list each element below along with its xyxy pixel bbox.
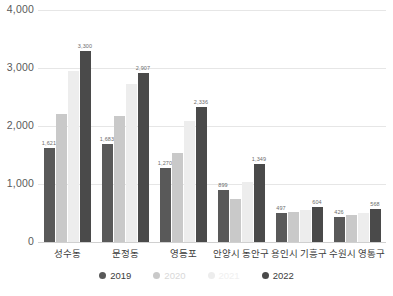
- bar-2022-영등포: 2,336: [196, 10, 207, 242]
- bar-2021-용인시 기흥구: [300, 10, 311, 242]
- bar-2022-성수동: 3,300: [80, 10, 91, 242]
- y-tick-label: 4,000: [0, 3, 34, 15]
- legend-swatch-icon: [153, 272, 160, 279]
- bar-rect: [300, 210, 311, 242]
- bar-value-label: 899: [218, 182, 227, 188]
- bar-chart: 1,6213,3001,6832,9071,2702,3368991,34949…: [0, 0, 393, 296]
- bar-rect: [68, 71, 79, 242]
- y-tick-label: 0: [0, 235, 34, 247]
- bar-2022-용인시 기흥구: 604: [312, 10, 323, 242]
- y-tick-label: 1,000: [0, 177, 34, 189]
- bar-2020-성수동: [56, 10, 67, 242]
- x-axis-label: 영등포: [154, 246, 212, 260]
- bar-2021-안양시 동안구: [242, 10, 253, 242]
- bar-2019-영등포: 1,270: [160, 10, 171, 242]
- legend-item-2022[interactable]: 2022: [262, 270, 294, 281]
- bar-group: 1,2702,336: [154, 10, 212, 242]
- bar-rect: [230, 199, 241, 243]
- bar-rect: [80, 51, 91, 242]
- x-axis-label: 성수동: [38, 246, 96, 260]
- bar-rect: [126, 84, 137, 242]
- bar-2019-수원시 영통구: 426: [334, 10, 345, 242]
- bar-rect: [56, 114, 67, 242]
- legend: 2019202020212022: [0, 270, 393, 281]
- bar-2020-영등포: [172, 10, 183, 242]
- bar-rect: [160, 168, 171, 242]
- bar-rect: [44, 148, 55, 242]
- bar-value-label: 1,270: [158, 160, 172, 166]
- bar-rect: [276, 213, 287, 242]
- legend-label: 2019: [110, 270, 131, 281]
- bar-rect: [254, 164, 265, 242]
- legend-item-2019[interactable]: 2019: [99, 270, 131, 281]
- x-axis-label: 안양시 동안구: [212, 246, 270, 260]
- bar-group: 8991,349: [212, 10, 270, 242]
- bar-rect: [242, 182, 253, 242]
- bar-rect: [358, 213, 369, 242]
- bar-2019-성수동: 1,621: [44, 10, 55, 242]
- y-tick-label: 2,000: [0, 119, 34, 131]
- gridline-0: [38, 242, 386, 243]
- x-axis-label: 수원시 영통구: [328, 246, 386, 260]
- bar-2020-용인시 기흥구: [288, 10, 299, 242]
- bar-2021-문정동: [126, 10, 137, 242]
- bar-group: 1,6832,907: [96, 10, 154, 242]
- bar-groups: 1,6213,3001,6832,9071,2702,3368991,34949…: [38, 10, 386, 242]
- bar-value-label: 1,683: [100, 136, 114, 142]
- bar-group: 497604: [270, 10, 328, 242]
- bar-rect: [334, 217, 345, 242]
- bar-2020-수원시 영통구: [346, 10, 357, 242]
- legend-swatch-icon: [99, 272, 106, 279]
- bar-rect: [370, 209, 381, 242]
- bar-2019-안양시 동안구: 899: [218, 10, 229, 242]
- bar-rect: [312, 207, 323, 242]
- bar-group: 426568: [328, 10, 386, 242]
- bar-value-label: 1,621: [42, 140, 56, 146]
- bar-2022-수원시 영통구: 568: [370, 10, 381, 242]
- bar-value-label: 2,336: [194, 99, 208, 105]
- bar-rect: [196, 107, 207, 242]
- bar-2021-수원시 영통구: [358, 10, 369, 242]
- bar-value-label: 497: [276, 205, 285, 211]
- legend-item-2020[interactable]: 2020: [153, 270, 185, 281]
- bar-rect: [218, 190, 229, 242]
- x-axis-categories: 성수동문정동영등포안양시 동안구용인시 기흥구수원시 영통구: [38, 246, 386, 260]
- bar-2022-문정동: 2,907: [138, 10, 149, 242]
- y-tick-label: 3,000: [0, 61, 34, 73]
- bar-2019-용인시 기흥구: 497: [276, 10, 287, 242]
- bar-value-label: 2,907: [136, 65, 150, 71]
- legend-label: 2021: [219, 270, 240, 281]
- bar-value-label: 3,300: [78, 43, 92, 49]
- bar-rect: [346, 215, 357, 242]
- bar-rect: [172, 153, 183, 242]
- legend-item-2021[interactable]: 2021: [208, 270, 240, 281]
- bar-value-label: 604: [312, 199, 321, 205]
- legend-label: 2022: [273, 270, 294, 281]
- bar-rect: [114, 116, 125, 242]
- bar-group: 1,6213,300: [38, 10, 96, 242]
- bar-2021-영등포: [184, 10, 195, 242]
- x-axis-label: 문정동: [96, 246, 154, 260]
- bar-value-label: 426: [334, 209, 343, 215]
- bar-2020-문정동: [114, 10, 125, 242]
- legend-label: 2020: [164, 270, 185, 281]
- bar-rect: [102, 144, 113, 242]
- bar-value-label: 568: [370, 201, 379, 207]
- bar-2019-문정동: 1,683: [102, 10, 113, 242]
- bar-2021-성수동: [68, 10, 79, 242]
- plot-area: 1,6213,3001,6832,9071,2702,3368991,34949…: [38, 10, 386, 242]
- legend-swatch-icon: [262, 272, 269, 279]
- x-axis-label: 용인시 기흥구: [270, 246, 328, 260]
- bar-2022-안양시 동안구: 1,349: [254, 10, 265, 242]
- legend-swatch-icon: [208, 272, 215, 279]
- bar-value-label: 1,349: [252, 156, 266, 162]
- bar-rect: [288, 212, 299, 242]
- bar-rect: [138, 73, 149, 242]
- bar-rect: [184, 121, 195, 242]
- bar-2020-안양시 동안구: [230, 10, 241, 242]
